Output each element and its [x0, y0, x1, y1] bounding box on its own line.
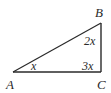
- vertex-label-b: B: [95, 5, 103, 20]
- angle-label-c: 3x: [81, 59, 94, 73]
- triangle-diagram: A B C x 2x 3x: [0, 0, 111, 93]
- vertex-label-a: A: [5, 77, 14, 92]
- vertex-label-c: C: [97, 77, 106, 92]
- angle-label-b: 2x: [84, 34, 96, 48]
- angle-label-a: x: [30, 59, 37, 73]
